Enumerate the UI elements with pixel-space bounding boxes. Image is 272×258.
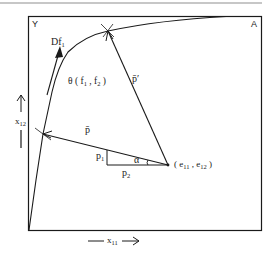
p1-sub: 1 bbox=[101, 155, 104, 162]
gradient-label-sub: 1 bbox=[62, 41, 65, 48]
y-axis-label: x12 bbox=[15, 117, 26, 128]
x-axis-label: x11 bbox=[107, 236, 118, 247]
price-vector-label: p̄ bbox=[85, 125, 90, 135]
frontier-curve bbox=[29, 17, 261, 231]
tangency-mark-lower bbox=[35, 128, 51, 140]
price-vector-line bbox=[43, 134, 168, 165]
edgeworth-box-diagram: Y A Df1 θ ( f1 , f2 ) p̄′ p̄ p1 p2 α ( e… bbox=[0, 0, 272, 258]
angle-alpha-label: α bbox=[134, 155, 139, 165]
region-label-c: ) bbox=[100, 76, 106, 86]
p2-sub: 2 bbox=[127, 172, 130, 179]
box-frame bbox=[29, 17, 262, 231]
endowment-point bbox=[167, 164, 170, 167]
corner-label-origin-a: A bbox=[251, 20, 257, 29]
angle-arc bbox=[147, 160, 148, 165]
endowment-close: ) bbox=[207, 159, 212, 169]
price-vector-prime-line bbox=[108, 31, 168, 165]
y-axis-label-sub: 12 bbox=[20, 120, 27, 127]
diagram-canvas bbox=[0, 0, 272, 258]
p1-label: p1 bbox=[96, 151, 104, 163]
gradient-label: Df1 bbox=[51, 37, 65, 49]
price-vector-prime-label: p̄′ bbox=[132, 74, 139, 84]
region-label-b: , f bbox=[87, 76, 97, 86]
p2-label: p2 bbox=[122, 168, 130, 180]
region-label-a: θ ( f bbox=[68, 76, 84, 86]
endowment-label: ( e11 , e12 ) bbox=[174, 160, 212, 171]
corner-label-origin-y: Y bbox=[32, 20, 38, 29]
x-axis-label-sub: 11 bbox=[112, 239, 118, 246]
endowment-mid: , e bbox=[190, 159, 201, 169]
endowment-open: ( e bbox=[174, 159, 183, 169]
gradient-label-text: Df bbox=[51, 36, 62, 47]
region-label: θ ( f1 , f2 ) bbox=[68, 77, 106, 88]
